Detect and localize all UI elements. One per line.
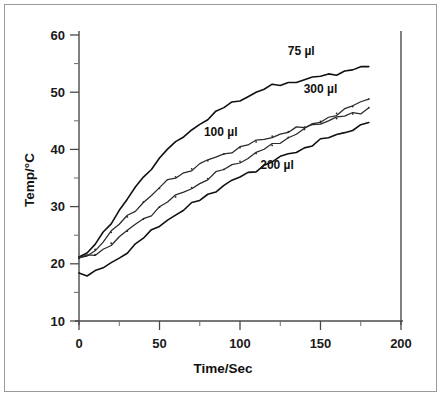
series-marker [143,218,145,220]
y-tick-label: 20 [51,256,65,271]
series-marker [207,178,209,180]
series-marker [239,161,241,163]
series-marker [336,112,338,114]
series-marker [287,136,289,138]
series-label-100ul: 100 µl [204,125,238,139]
series-marker [191,168,193,170]
series-marker [159,206,161,208]
series-marker [143,201,145,203]
series-marker [352,106,354,108]
series-label-300ul: 300 µl [304,82,338,96]
series-marker [94,249,96,251]
series-marker [110,242,112,244]
series-marker [159,187,161,189]
y-tick-label: 40 [51,142,65,157]
series-marker [287,131,289,133]
curve-layer [78,67,370,276]
figure-frame: 102030405060050100150200 75 µl300 µl100 … [4,4,437,392]
axis-layer: 102030405060050100150200 [51,28,412,352]
y-tick-label: 30 [51,199,65,214]
series-marker [207,160,209,162]
series-marker [110,231,112,233]
y-tick-label: 60 [51,28,65,43]
series-marker [191,187,193,189]
series-marker [255,153,257,155]
series-marker [175,196,177,198]
x-tick-label: 150 [310,336,332,351]
series-curve-200-l [79,123,369,276]
series-marker [304,128,306,130]
series-marker [126,216,128,218]
series-marker [223,153,225,155]
series-curve-300-l [79,99,369,258]
x-tick-label: 100 [229,336,251,351]
y-axis-title: Temp/°C [22,153,37,207]
series-marker [94,254,96,256]
y-tick-label: 50 [51,85,65,100]
series-marker [352,113,354,115]
series-marker [78,257,80,259]
series-marker [271,145,273,147]
series-marker [320,120,322,122]
y-tick-label: 10 [51,314,65,329]
series-marker [336,118,338,120]
series-marker [175,176,177,178]
x-tick-label: 200 [390,336,412,351]
series-label-75ul: 75 µl [288,44,315,58]
series-marker [368,98,370,100]
series-marker [368,107,370,109]
series-marker [126,230,128,232]
series-marker [271,135,273,137]
x-tick-label: 50 [152,336,166,351]
x-tick-label: 0 [75,336,82,351]
series-marker [239,147,241,149]
x-axis-title: Time/Sec [193,361,253,376]
series-marker [223,169,225,171]
chart-plot: 102030405060050100150200 75 µl300 µl100 … [5,5,436,391]
series-marker [255,141,257,143]
series-label-200ul: 200 µl [260,158,294,172]
